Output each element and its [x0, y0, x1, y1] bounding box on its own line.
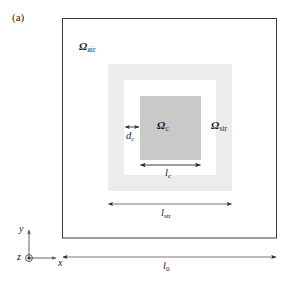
panel-label: (a) — [12, 12, 24, 23]
omega-str-subscript: str — [220, 124, 228, 133]
l0-subscript: 0 — [166, 265, 170, 273]
y-axis-label: y — [19, 224, 23, 234]
z-axis-center-dot-icon — [28, 257, 31, 260]
z-axis-label: z — [17, 252, 21, 262]
omega-c-symbol: Ω — [157, 119, 165, 131]
lc-subscript: c — [168, 172, 171, 180]
lstr-subscript: str — [164, 212, 171, 220]
lc-dimension-label: lc — [165, 168, 171, 179]
lstr-dimension-label: lstr — [161, 208, 171, 219]
omega-str-symbol: Ω — [211, 119, 219, 131]
omega-air-label: Ωair — [79, 41, 95, 52]
diagram-canvas — [0, 0, 296, 281]
omega-air-subscript: air — [88, 45, 96, 54]
x-axis-label: x — [58, 258, 62, 268]
omega-str-label: Ωstr — [211, 120, 227, 131]
omega-c-region — [140, 96, 201, 160]
dc-dimension-label: dc — [126, 131, 134, 142]
omega-c-subscript: c — [166, 124, 169, 133]
l0-dimension-label: l0 — [163, 261, 169, 272]
omega-air-symbol: Ω — [79, 40, 87, 52]
figure-panel-a: (a) Ωair Ωc Ωstr dc lc lstr l0 y x z — [0, 0, 296, 281]
dc-subscript: c — [131, 135, 134, 143]
omega-c-label: Ωc — [157, 120, 169, 131]
